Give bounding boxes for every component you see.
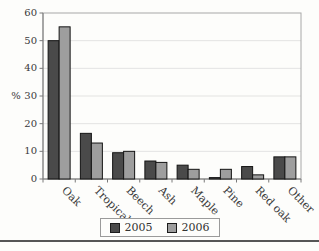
bar-2006-oak <box>59 27 70 179</box>
bar-2006-pine <box>220 169 231 179</box>
bar-2006-other <box>285 157 296 179</box>
page-divider-line <box>0 240 319 242</box>
legend-item-2005: 2005 <box>110 221 153 234</box>
y-tick-label: 20 <box>24 118 37 129</box>
y-tick-label: 30 <box>24 90 37 101</box>
bar-2005-ash <box>145 161 156 179</box>
legend-label-2005: 2005 <box>125 221 153 234</box>
y-axis-title: % <box>11 90 21 101</box>
x-category-label: Oak <box>59 184 84 209</box>
y-tick-label: 60 <box>24 7 37 18</box>
bar-2005-maple <box>177 165 188 179</box>
bar-2005-tropical <box>80 133 91 179</box>
legend-label-2006: 2006 <box>182 221 210 234</box>
x-category-label: Pine <box>220 184 247 211</box>
bar-2005-other <box>274 157 285 179</box>
x-category-label: Maple <box>188 184 222 218</box>
bar-2005-red-oak <box>242 167 253 179</box>
bar-2006-ash <box>156 162 167 179</box>
bar-2005-oak <box>48 41 59 179</box>
bar-2006-red-oak <box>253 175 264 179</box>
bar-2005-beech <box>113 153 124 179</box>
y-tick-label: 10 <box>24 145 37 156</box>
legend-swatch-2006 <box>167 223 177 233</box>
bar-2006-tropical <box>91 143 102 179</box>
bar-2006-maple <box>188 169 199 179</box>
legend-item-2006: 2006 <box>167 221 210 234</box>
bar-chart: 0102030405060%OakTropicalBeechAshMaplePi… <box>0 0 319 251</box>
y-tick-label: 0 <box>31 173 37 184</box>
legend-swatch-2005 <box>110 223 120 233</box>
chart-legend: 2005 2006 <box>100 218 220 237</box>
y-tick-label: 40 <box>24 62 37 73</box>
y-tick-label: 50 <box>24 35 37 46</box>
bar-2005-pine <box>209 178 220 179</box>
bar-chart-figure: 0102030405060%OakTropicalBeechAshMaplePi… <box>0 0 319 251</box>
x-category-label: Ash <box>155 183 180 208</box>
bar-2006-beech <box>124 151 135 179</box>
